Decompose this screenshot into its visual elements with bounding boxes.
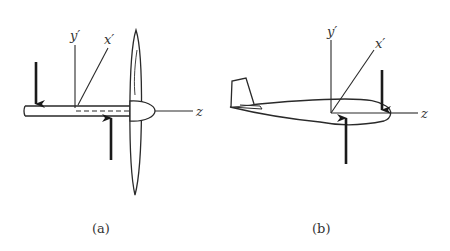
x-prime-label: x′ <box>104 32 114 47</box>
y-prime-label: y′ <box>326 24 337 39</box>
y-prime-label: y′ <box>69 28 80 43</box>
caption-a: (a) <box>92 221 110 236</box>
z-label: z <box>195 104 203 119</box>
x-prime-label: x′ <box>375 36 385 51</box>
z-label: z <box>420 106 428 121</box>
caption-b: (b) <box>312 221 330 236</box>
x-prime-axis <box>78 48 108 105</box>
torque-couple-diagram: y′ x′ z (a) y′ x′ z (b) <box>0 0 450 251</box>
propeller-hub <box>130 101 155 121</box>
panel-b: y′ x′ z (b) <box>180 24 428 236</box>
panel-a: y′ x′ z (a) <box>24 28 203 236</box>
